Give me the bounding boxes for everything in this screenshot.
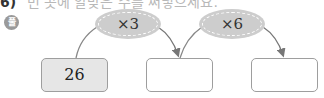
arrow-box1-to-op1 [76,27,97,58]
operation-label: ×3 [95,9,161,39]
answer-box-2[interactable] [251,58,318,92]
answer-box-1[interactable] [146,58,213,92]
operation-oval-multiply-6: ×6 [199,9,265,39]
operation-oval-multiply-3: ×3 [95,9,161,39]
value-box-start: 26 [41,58,108,92]
arrow-op1-to-box2 [158,27,178,55]
operation-label: ×6 [199,9,265,39]
arrow-op2-to-box3 [263,27,283,55]
